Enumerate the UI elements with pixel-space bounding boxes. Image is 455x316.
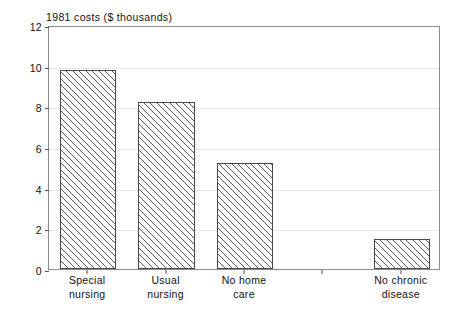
x-tick-label: Specialnursing: [69, 274, 106, 301]
y-tick-label: 0: [36, 265, 42, 277]
y-tick-label: 4: [36, 184, 42, 196]
x-axis-labels: SpecialnursingUsualnursingNo homecareNo …: [48, 274, 440, 314]
x-tick-label-line: nursing: [147, 288, 184, 302]
x-tick-label-line: disease: [374, 288, 427, 302]
x-tick-label: Usualnursing: [147, 274, 184, 301]
x-tick-label-line: Special: [69, 274, 106, 288]
x-tick-label: No homecare: [222, 274, 267, 301]
bar-chart-figure: 1981 costs ($ thousands) 024681012 Speci…: [0, 0, 455, 316]
plot-area: 024681012: [48, 26, 440, 270]
bar: [374, 239, 430, 270]
x-tick-label-line: Usual: [147, 274, 184, 288]
y-tick-label: 12: [30, 21, 42, 33]
x-tick-label-line: nursing: [69, 288, 106, 302]
y-tick-label: 8: [36, 102, 42, 114]
bars-layer: [49, 27, 439, 269]
y-tick-label: 10: [30, 62, 42, 74]
bar: [217, 163, 273, 269]
bar: [138, 102, 194, 269]
x-tick-label: No chronicdisease: [374, 274, 427, 301]
chart-title: 1981 costs ($ thousands): [46, 11, 172, 23]
bar: [60, 70, 116, 269]
y-tick-label: 2: [36, 224, 42, 236]
x-tick-label-line: care: [222, 288, 267, 302]
y-tick-label: 6: [36, 143, 42, 155]
x-tick-label-line: No home: [222, 274, 267, 288]
x-tick-label-line: No chronic: [374, 274, 427, 288]
